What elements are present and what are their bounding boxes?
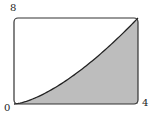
- diagram-canvas: [0, 0, 151, 119]
- label-x-max: 4: [142, 98, 148, 108]
- label-origin: 0: [4, 103, 10, 113]
- shaded-region: [14, 18, 138, 104]
- label-y-max: 8: [10, 3, 16, 13]
